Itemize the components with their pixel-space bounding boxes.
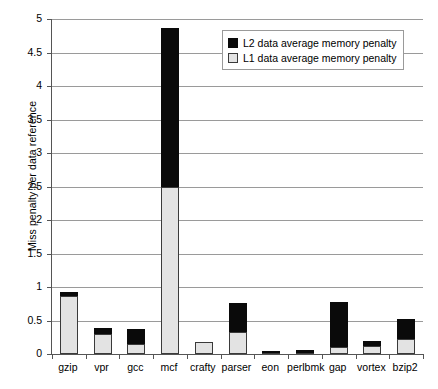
bar-segment-l1-parser — [229, 332, 247, 354]
bar-group-vortex — [363, 341, 381, 354]
y-tick-mark — [47, 321, 52, 322]
bar-segment-l2-parser — [229, 303, 247, 332]
y-tick-label: 5 — [0, 13, 42, 24]
x-tick-mark — [356, 354, 357, 359]
y-axis-title: Miss penalty per data reference — [26, 56, 38, 296]
bar-group-gap — [330, 302, 348, 354]
bar-segment-l2-gcc — [127, 329, 145, 344]
bar-segment-l1-crafty — [195, 342, 213, 354]
bar-segment-l1-gzip — [60, 296, 78, 354]
bar-segment-l2-gzip — [60, 292, 78, 296]
gridline — [52, 153, 423, 154]
x-tick-mark — [86, 354, 87, 359]
bar-group-gzip — [60, 292, 78, 354]
bar-group-mcf — [161, 28, 179, 354]
bar-segment-l2-bzip2 — [397, 319, 415, 340]
bar-segment-l1-bzip2 — [397, 339, 415, 354]
y-tick-label: 2.5 — [0, 181, 42, 192]
gridline — [52, 19, 423, 20]
x-tick-label: crafty — [186, 361, 220, 373]
y-tick-mark — [47, 220, 52, 221]
y-tick-mark — [47, 254, 52, 255]
bar-segment-l1-vortex — [363, 346, 381, 354]
bar-group-parser — [229, 303, 247, 354]
y-tick-mark — [47, 287, 52, 288]
y-tick-label: 1.5 — [0, 248, 42, 259]
bar-segment-l1-vpr — [94, 334, 112, 354]
bar-group-gcc — [127, 329, 145, 354]
gridline — [52, 120, 423, 121]
y-tick-mark — [47, 187, 52, 188]
bar-group-bzip2 — [397, 319, 415, 355]
stacked-bar-chart: Miss penalty per data reference gzipvprg… — [0, 0, 438, 389]
x-tick-label: parser — [220, 361, 254, 373]
chart-legend: L2 data average memory penalty L1 data a… — [222, 30, 404, 70]
x-tick-label: gzip — [51, 361, 85, 373]
bar-segment-l2-perlbmk — [296, 350, 314, 353]
x-tick-label: eon — [253, 361, 287, 373]
y-tick-mark — [47, 19, 52, 20]
y-tick-mark — [47, 53, 52, 54]
y-tick-label: 4.5 — [0, 47, 42, 58]
y-tick-label: 3.5 — [0, 114, 42, 125]
bar-segment-l2-mcf — [161, 28, 179, 187]
x-tick-mark — [187, 354, 188, 359]
gridline — [52, 86, 423, 87]
bar-group-perlbmk — [296, 350, 314, 354]
legend-swatch-l1-icon — [228, 53, 238, 63]
legend-item-l2: L2 data average memory penalty — [228, 35, 397, 50]
x-tick-label: mcf — [152, 361, 186, 373]
legend-label-l2: L2 data average memory penalty — [243, 37, 397, 49]
gridline — [52, 187, 423, 188]
bar-group-crafty — [195, 342, 213, 354]
x-tick-label: perlbmk — [287, 361, 321, 373]
y-tick-label: 1 — [0, 281, 42, 292]
y-tick-mark — [47, 153, 52, 154]
x-tick-mark — [423, 354, 424, 359]
y-tick-label: 0.5 — [0, 315, 42, 326]
legend-swatch-l2-icon — [228, 38, 238, 48]
x-tick-label: gcc — [118, 361, 152, 373]
bar-segment-l2-eon — [262, 351, 280, 353]
bar-segment-l1-gcc — [127, 344, 145, 354]
y-tick-label: 0 — [0, 348, 42, 359]
gridline — [52, 287, 423, 288]
x-tick-mark — [389, 354, 390, 359]
x-tick-label: bzip2 — [388, 361, 422, 373]
legend-label-l1: L1 data average memory penalty — [243, 52, 397, 64]
bar-segment-l1-mcf — [161, 187, 179, 355]
bar-group-vpr — [94, 328, 112, 354]
x-tick-mark — [288, 354, 289, 359]
bar-segment-l2-vortex — [363, 341, 381, 346]
x-tick-mark — [221, 354, 222, 359]
bar-segment-l1-gap — [330, 347, 348, 354]
y-tick-label: 3 — [0, 147, 42, 158]
x-tick-label: vpr — [85, 361, 119, 373]
y-tick-label: 2 — [0, 214, 42, 225]
bar-group-eon — [262, 353, 280, 354]
legend-item-l1: L1 data average memory penalty — [228, 50, 397, 65]
y-tick-label: 4 — [0, 80, 42, 91]
x-tick-mark — [153, 354, 154, 359]
y-tick-mark — [47, 86, 52, 87]
gridline — [52, 254, 423, 255]
x-tick-mark — [254, 354, 255, 359]
x-tick-label: gap — [321, 361, 355, 373]
x-tick-label: vortex — [355, 361, 389, 373]
x-tick-mark — [119, 354, 120, 359]
x-tick-mark — [322, 354, 323, 359]
bar-segment-l2-vpr — [94, 328, 112, 334]
y-tick-mark — [47, 120, 52, 121]
gridline — [52, 220, 423, 221]
x-tick-mark — [52, 354, 53, 359]
bar-segment-l2-gap — [330, 302, 348, 347]
